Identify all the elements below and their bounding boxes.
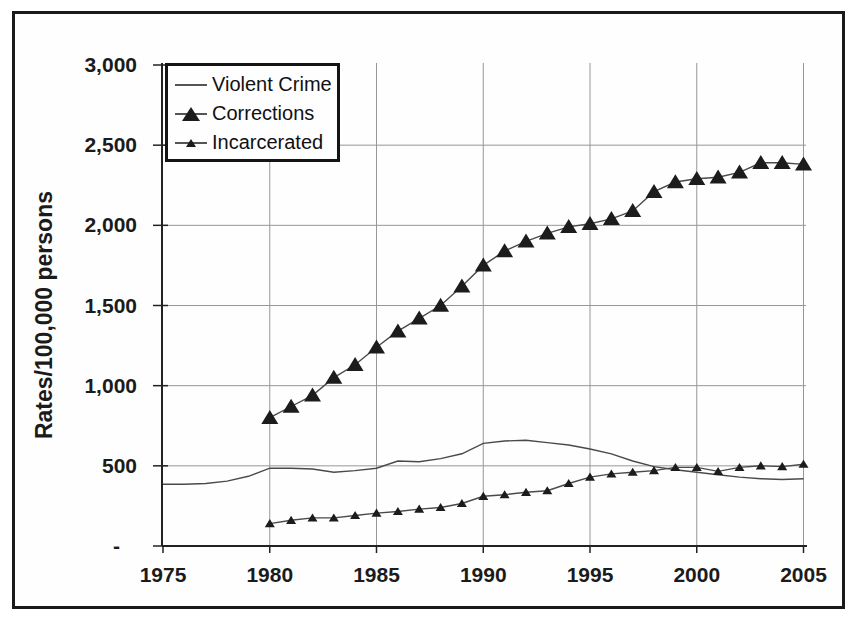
- legend: Violent Crime Corrections Incarcerated: [165, 63, 340, 162]
- x-tick-label: 1975: [123, 562, 203, 588]
- x-tick-label: 2005: [764, 562, 844, 588]
- incarcerated-marker-icon: [175, 128, 207, 157]
- y-tick-label: 2,000: [40, 212, 137, 238]
- x-tick-label: 1990: [443, 562, 523, 588]
- y-tick-label: -: [40, 533, 120, 559]
- x-tick-label: 1980: [230, 562, 310, 588]
- legend-item-incarcerated: Incarcerated: [168, 128, 337, 157]
- legend-label-incarcerated: Incarcerated: [212, 131, 323, 154]
- y-tick-label: 2,500: [40, 132, 137, 158]
- y-tick-label: 3,000: [40, 52, 137, 78]
- legend-item-violent-crime: Violent Crime: [168, 70, 337, 99]
- legend-label-violent-crime: Violent Crime: [212, 73, 332, 96]
- x-tick-label: 1995: [550, 562, 630, 588]
- corrections-line: [270, 163, 804, 418]
- legend-item-corrections: Corrections: [168, 99, 337, 128]
- legend-label-corrections: Corrections: [212, 102, 314, 125]
- x-tick-label: 1985: [337, 562, 417, 588]
- scanned-chart-page: Rates/100,000 persons 3,0002,5002,0001,5…: [0, 0, 856, 631]
- incarcerated-line: [270, 464, 804, 523]
- y-tick-label: 500: [40, 453, 137, 479]
- corrections-marker-icon: [175, 99, 207, 128]
- y-tick-label: 1,500: [40, 293, 137, 319]
- y-tick-label: 1,000: [40, 373, 137, 399]
- corrections-markers: [261, 155, 812, 424]
- violent-crime-line-icon: [175, 70, 207, 99]
- x-tick-label: 2000: [657, 562, 737, 588]
